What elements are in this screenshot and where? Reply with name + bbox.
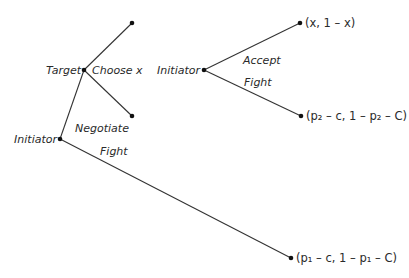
label-fight-right: Fight bbox=[244, 76, 272, 89]
label-initiator-right: Initiator bbox=[157, 64, 201, 77]
edge-target-upper bbox=[84, 23, 132, 70]
payoff-fight-left: (p₁ – c, 1 – p₁ – C) bbox=[296, 251, 397, 265]
payoff-accept: (x, 1 – x) bbox=[305, 16, 355, 30]
node-initiator-left bbox=[58, 137, 63, 142]
label-accept: Accept bbox=[242, 54, 281, 67]
label-fight-left: Fight bbox=[100, 145, 128, 158]
node-leaf-fight-right bbox=[299, 114, 304, 119]
node-leaf-upper bbox=[130, 21, 135, 26]
payoff-fight-right: (p₂ – c, 1 – p₂ – C) bbox=[306, 109, 407, 123]
label-choose-x: Choose x bbox=[92, 64, 143, 77]
label-target: Target bbox=[46, 64, 82, 77]
label-initiator-left: Initiator bbox=[14, 133, 58, 146]
node-target bbox=[82, 68, 87, 73]
node-leaf-lower bbox=[130, 114, 135, 119]
game-tree-diagram: Target Choose x Negotiate Initiator Figh… bbox=[0, 0, 409, 278]
label-negotiate: Negotiate bbox=[75, 122, 129, 135]
node-initiator-right bbox=[202, 68, 207, 73]
node-leaf-accept bbox=[298, 21, 303, 26]
edge-fight-left bbox=[60, 139, 291, 258]
node-leaf-fight-left bbox=[289, 256, 294, 261]
